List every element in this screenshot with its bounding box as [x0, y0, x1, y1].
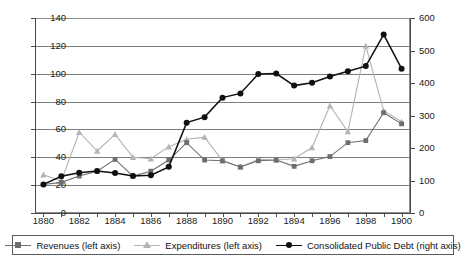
- right-axis-tick: [410, 148, 415, 149]
- right-axis-tick: [410, 116, 415, 117]
- x-axis-tick-label: 1900: [382, 216, 422, 226]
- x-axis-tick-label: 1888: [167, 216, 207, 226]
- x-axis-tick-label: 1898: [346, 216, 386, 226]
- right-axis-tick-label: 400: [419, 78, 453, 88]
- left-axis-tick-label: 20: [36, 180, 66, 190]
- left-axis-tick-label: 40: [36, 152, 66, 162]
- legend-item[interactable]: Expenditures (left axis): [134, 240, 262, 251]
- gridline: [35, 102, 410, 103]
- legend-swatch-triangle-icon: [134, 240, 160, 250]
- x-axis-tick-label: 1892: [238, 216, 278, 226]
- legend-item[interactable]: Consolidated Public Debt (right axis): [276, 240, 461, 251]
- right-axis-tick-label: 0: [419, 208, 453, 218]
- legend-label: Consolidated Public Debt (right axis): [307, 240, 461, 251]
- legend-swatch-circle-icon: [276, 240, 302, 250]
- x-axis-tick-label: 1886: [131, 216, 171, 226]
- left-axis-tick-label: 80: [36, 97, 66, 107]
- left-axis-tick-label: 140: [36, 13, 66, 23]
- left-axis-tick-label: 100: [36, 69, 66, 79]
- gridline: [35, 157, 410, 158]
- gridline: [35, 74, 410, 75]
- legend-item[interactable]: Revenues (left axis): [5, 240, 120, 251]
- right-axis-tick-label: 200: [419, 143, 453, 153]
- left-axis-tick-label: 60: [36, 124, 66, 134]
- legend-label: Expenditures (left axis): [165, 240, 262, 251]
- right-axis-tick-label: 500: [419, 46, 453, 56]
- right-axis-tick: [410, 51, 415, 52]
- chart-container: 020406080100120140 0100200300400500600 1…: [0, 0, 466, 260]
- x-axis-tick-label: 1890: [203, 216, 243, 226]
- right-axis-tick-label: 300: [419, 111, 453, 121]
- right-axis-tick-label: 600: [419, 13, 453, 23]
- x-axis-tick-label: 1884: [95, 216, 135, 226]
- left-axis-tick-label: 120: [36, 41, 66, 51]
- right-axis-tick: [410, 213, 415, 214]
- gridline: [35, 185, 410, 186]
- x-axis-tick-label: 1882: [59, 216, 99, 226]
- x-axis-tick-label: 1896: [310, 216, 350, 226]
- gridline: [35, 46, 410, 47]
- x-axis-tick-label: 1894: [274, 216, 314, 226]
- plot-area: [35, 18, 410, 213]
- right-axis-tick-label: 100: [419, 176, 453, 186]
- legend-swatch-square-icon: [5, 240, 31, 250]
- legend-label: Revenues (left axis): [36, 240, 120, 251]
- right-axis-tick: [410, 18, 415, 19]
- right-axis-tick: [410, 181, 415, 182]
- x-axis-tick-label: 1880: [23, 216, 63, 226]
- chart-legend: Revenues (left axis)Expenditures (left a…: [12, 235, 454, 255]
- gridline: [35, 129, 410, 130]
- right-axis-tick: [410, 83, 415, 84]
